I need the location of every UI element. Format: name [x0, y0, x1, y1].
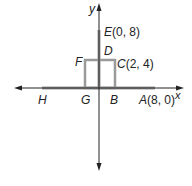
point-G-label: G — [81, 94, 90, 106]
x-axis-label: x — [175, 90, 181, 101]
point-B-label: B — [110, 94, 118, 106]
point-A-label: A(8, 0) — [139, 94, 175, 106]
x-axis-left-arrow-icon — [14, 86, 22, 91]
y-axis-label: y — [89, 3, 95, 15]
point-E-label: E(0, 8) — [104, 26, 140, 38]
y-axis-up-arrow-icon — [97, 3, 102, 11]
point-D-label: D — [104, 45, 113, 57]
point-C-label: C(2, 4) — [117, 58, 154, 70]
y-axis-down-arrow-icon — [97, 163, 102, 171]
point-H-label: H — [38, 94, 47, 106]
point-F-label: F — [75, 56, 82, 68]
